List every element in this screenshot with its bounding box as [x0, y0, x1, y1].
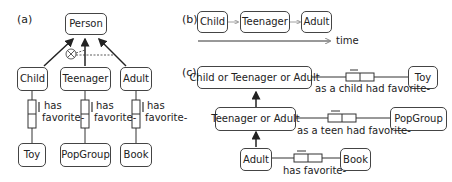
teenager-node: Teenager — [60, 67, 111, 91]
toy-node: Toy — [18, 143, 46, 167]
fact-label-has: has — [44, 101, 62, 111]
teenager-or-adult-node: Teenager or Adult — [215, 107, 296, 131]
time-axis-label: time — [336, 36, 359, 46]
adult-node: Adult — [120, 67, 152, 91]
c-adult-node: Adult — [240, 148, 272, 171]
fact-label-favorite: favorite- — [145, 113, 187, 123]
fact-label-favorite: favorite- — [42, 113, 84, 123]
fact-label-favorite: favorite- — [94, 113, 136, 123]
child-or-teenager-or-adult-node: Child or Teenager or Adult — [197, 66, 312, 89]
popgroup-node: PopGroup — [60, 143, 111, 167]
book-node: Book — [120, 143, 152, 167]
child-node: Child — [17, 67, 48, 91]
panel-b-label: (b) — [182, 14, 198, 25]
person-node: Person — [65, 13, 107, 35]
b-child-node: Child — [197, 11, 228, 33]
fact-has-favorite: has favorite- — [283, 166, 346, 176]
fact-as-teen: as a teen had favorite- — [297, 126, 411, 136]
fact-label-has: has — [147, 101, 165, 111]
panel-a-label: (a) — [17, 14, 32, 25]
fact-as-child: as a child had favorite- — [315, 84, 430, 94]
b-teenager-node: Teenager — [240, 11, 290, 33]
fact-label-has: has — [96, 101, 114, 111]
b-adult-node: Adult — [301, 11, 332, 33]
